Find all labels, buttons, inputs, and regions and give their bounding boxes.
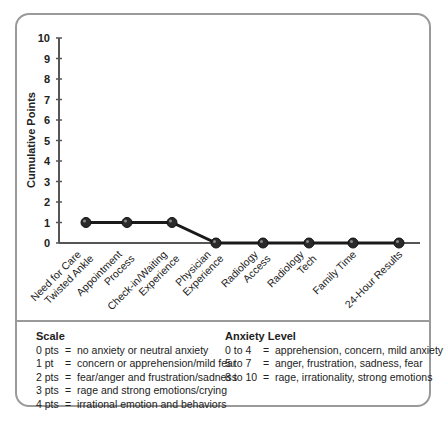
legend-description: rage, irrationality, strong emotions (275, 371, 432, 385)
legend-row: 5 to 7=anger, frustration, sadness, fear (225, 357, 443, 371)
y-tick-label: 10 (38, 32, 50, 44)
x-tick-label: Family Time (310, 248, 359, 297)
legend-description: anger, frustration, sadness, fear (275, 357, 423, 371)
line-chart: 012345678910 Need for CareTwisted AnkleA… (0, 0, 446, 320)
legend-key: 2 pts (36, 371, 65, 385)
data-point-highlight (396, 240, 399, 243)
scale-legend: Scale 0 pts=no anxiety or neutral anxiet… (36, 330, 237, 411)
data-point-highlight (306, 240, 309, 243)
x-tick-label: RadiologyAccess (218, 244, 272, 298)
y-tick-label: 2 (44, 196, 50, 208)
data-point (394, 238, 404, 248)
data-point (81, 218, 91, 228)
legend-divider (15, 320, 431, 322)
legend-row: 8 to 10=rage, irrationality, strong emot… (225, 371, 443, 385)
legend-description: irrational emotion and behaviors (77, 398, 226, 412)
data-point (167, 218, 177, 228)
legend-key: 5 to 7 (225, 357, 263, 371)
x-tick-label: PhysicianExperience (172, 244, 226, 298)
svg-text:RadiologyAccess: RadiologyAccess (218, 244, 272, 298)
y-tick-label: 3 (44, 176, 50, 188)
y-tick-label: 4 (44, 155, 51, 167)
data-point-highlight (169, 220, 172, 223)
data-point (122, 218, 132, 228)
y-tick-label: 9 (44, 53, 50, 65)
svg-text:Family Time: Family Time (310, 248, 359, 297)
y-axis-label: Cumulative Points (25, 92, 37, 188)
y-tick-label: 5 (44, 135, 50, 147)
legend-description: rage and strong emotions/crying (77, 384, 227, 398)
legend-key: 1 pt (36, 357, 65, 371)
data-point-highlight (350, 240, 353, 243)
data-point (304, 238, 314, 248)
legend-key: 3 pts (36, 384, 65, 398)
legend-equals: = (263, 357, 275, 371)
legend-description: concern or apprehension/mild fear (77, 357, 236, 371)
legend-description: apprehension, concern, mild anxiety (275, 344, 443, 358)
data-point-highlight (124, 220, 127, 223)
legend-key: 0 pts (36, 344, 65, 358)
data-point (211, 238, 221, 248)
legend-description: no anxiety or neutral anxiety (77, 344, 208, 358)
scale-legend-title: Scale (36, 330, 237, 344)
legend-row: 0 to 4=apprehension, concern, mild anxie… (225, 344, 443, 358)
legend-description: fear/anger and frustration/sadness (77, 371, 237, 385)
legend-equals: = (65, 398, 77, 412)
y-tick-label: 6 (44, 114, 50, 126)
legend-equals: = (65, 384, 77, 398)
legend-key: 8 to 10 (225, 371, 263, 385)
legend-key: 0 to 4 (225, 344, 263, 358)
data-point (258, 238, 268, 248)
anxiety-level-legend-title: Anxiety Level (225, 330, 443, 344)
legend-row: 1 pt=concern or apprehension/mild fear (36, 357, 237, 371)
x-axis: Need for CareTwisted AnkleAppointmentPro… (28, 243, 420, 320)
legend-row: 4 pts=irrational emotion and behaviors (36, 398, 237, 412)
y-tick-label: 1 (44, 217, 50, 229)
svg-text:PhysicianExperience: PhysicianExperience (172, 244, 226, 298)
legend-row: 2 pts=fear/anger and frustration/sadness (36, 371, 237, 385)
y-axis: 012345678910 (38, 32, 62, 249)
legend-equals: = (65, 344, 77, 358)
data-point (348, 238, 358, 248)
data-point-highlight (213, 240, 216, 243)
legend-key: 4 pts (36, 398, 65, 412)
legend-row: 3 pts=rage and strong emotions/crying (36, 384, 237, 398)
anxiety-level-legend: Anxiety Level 0 to 4=apprehension, conce… (225, 330, 443, 384)
data-point-highlight (260, 240, 263, 243)
legend-equals: = (65, 357, 77, 371)
y-tick-label: 0 (44, 237, 50, 249)
y-tick-label: 7 (44, 94, 50, 106)
y-tick-label: 8 (44, 73, 50, 85)
legend-row: 0 pts=no anxiety or neutral anxiety (36, 344, 237, 358)
data-point-highlight (83, 220, 86, 223)
legend-equals: = (65, 371, 77, 385)
legend-equals: = (263, 344, 275, 358)
legend-equals: = (263, 371, 275, 385)
